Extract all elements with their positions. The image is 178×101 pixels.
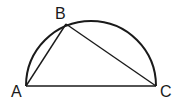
label-c: C bbox=[160, 83, 172, 100]
label-b: B bbox=[55, 5, 66, 22]
semicircle-triangle-diagram: A B C bbox=[0, 0, 178, 101]
segment-bc bbox=[66, 24, 156, 86]
semicircle-arc bbox=[26, 21, 156, 86]
segment-ab bbox=[26, 24, 66, 86]
label-a: A bbox=[11, 83, 22, 100]
